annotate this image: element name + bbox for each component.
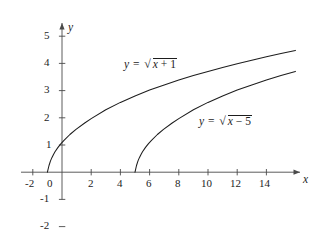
y-tick-label-2: 2 — [44, 112, 50, 123]
y-tick-label--1: -1 — [40, 193, 49, 204]
curve2-radical-group: √ x − 5 — [218, 115, 252, 128]
x-tick-label--2: -2 — [25, 178, 34, 189]
x-axis-label: x — [303, 174, 308, 186]
x-tick-label-2: 2 — [88, 178, 94, 189]
y-tick-label--2: -2 — [40, 220, 49, 231]
y-tick-label-3: 3 — [44, 84, 50, 95]
curve1-equals: = — [132, 58, 141, 70]
x-tick-label-14: 14 — [259, 178, 270, 189]
y-axis-label: y — [68, 22, 73, 34]
function-graph-figure: -2 0 2 4 6 8 10 12 14 5 4 3 2 1 -1 -2 y … — [0, 0, 320, 248]
curve1-radical-group: √ x + 1 — [143, 58, 177, 71]
curve2-equals: = — [207, 115, 216, 127]
x-axis-arrowhead — [294, 170, 301, 175]
curve-label-sqrt-x-minus-5: y = √ x − 5 — [199, 115, 252, 128]
x-tick-label-4: 4 — [117, 178, 123, 189]
x-tick-label-0: 0 — [47, 178, 53, 189]
curve2-constant: 5 — [245, 115, 251, 127]
radical-icon: √ — [144, 57, 151, 71]
curve2-radicand: x − 5 — [228, 115, 252, 128]
curve1-constant: 1 — [170, 58, 176, 70]
x-tick-label-12: 12 — [230, 178, 241, 189]
curve2-lhs: y — [199, 115, 204, 127]
curve-label-sqrt-x-plus-1: y = √ x + 1 — [124, 58, 177, 71]
curve2-variable: x — [228, 115, 233, 127]
y-axis-arrowhead — [59, 23, 64, 30]
curve1-radicand: x + 1 — [153, 58, 177, 71]
x-tick-label-8: 8 — [175, 178, 181, 189]
y-tick-label-1: 1 — [46, 139, 52, 150]
x-tick-label-10: 10 — [201, 178, 212, 189]
curve1-variable: x — [153, 58, 158, 70]
curve1-operator: + — [161, 58, 168, 70]
curve1-lhs: y — [124, 58, 129, 70]
y-tick-label-4: 4 — [44, 57, 50, 68]
radical-icon: √ — [219, 114, 226, 128]
curve2-operator: − — [236, 115, 243, 127]
y-tick-label-5: 5 — [44, 30, 50, 41]
x-tick-label-6: 6 — [146, 178, 152, 189]
